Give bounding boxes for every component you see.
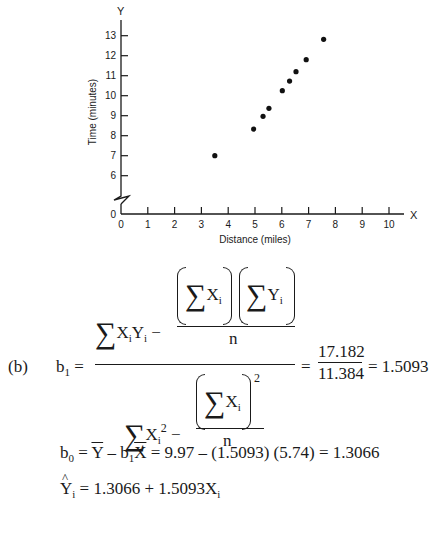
data-points <box>212 37 326 159</box>
y-tick-label: 11 <box>106 70 117 81</box>
y-tick-label: 12 <box>105 50 117 61</box>
y-tick-label: 13 <box>105 30 117 41</box>
x-axis-label: Distance (miles) <box>219 234 291 245</box>
x-tick-label: 10 <box>383 219 395 230</box>
b1-symbol: b <box>56 357 65 376</box>
x-tick-label: 2 <box>172 219 178 230</box>
x-tick-label: 1 <box>145 219 151 230</box>
result-value: = 1.5093 <box>368 358 429 375</box>
right-paren <box>242 374 251 430</box>
x-tick-label: 3 <box>199 219 205 230</box>
data-point <box>304 57 309 62</box>
b1-subscript: 1 <box>65 366 71 378</box>
data-point <box>293 69 298 74</box>
x-symbol: X <box>116 323 128 342</box>
equals-sign: = <box>78 443 88 462</box>
y-tick-label: 0 <box>110 209 116 220</box>
y-tick-label: 10 <box>105 90 117 101</box>
data-point <box>287 79 292 84</box>
x-tick-label: 7 <box>306 219 312 230</box>
superscript-2: 2 <box>161 421 167 435</box>
y-symbol: Y <box>267 285 279 304</box>
y-tick-label: 8 <box>110 130 116 141</box>
y-tick-label: 9 <box>110 110 116 121</box>
x-tick-label: 5 <box>252 219 258 230</box>
y-tick-label: 6 <box>110 170 116 181</box>
equals-sign: = <box>74 357 84 376</box>
data-point <box>321 37 326 42</box>
numerator-n: n <box>229 330 238 347</box>
x-tick-label: 0 <box>118 219 124 230</box>
y-axis-letter: Y <box>117 5 125 17</box>
y-axis-label: Time (minutes) <box>87 79 98 145</box>
right-paren <box>223 267 232 325</box>
part-label: (b) <box>8 358 28 375</box>
sub-i: i <box>219 294 222 306</box>
sub-i: i <box>217 488 220 500</box>
sub-i: i <box>238 401 241 413</box>
b0-subscript: 0 <box>69 452 75 464</box>
sum-y-term: ∑Yi <box>246 280 283 310</box>
x-axis-letter: X <box>410 209 418 221</box>
scatter-chart: 012345678910 0678910111213 X Y Distance … <box>0 0 446 250</box>
main-fraction-bar <box>95 364 295 365</box>
b1-symbol: b <box>120 443 129 462</box>
x-ticks: 012345678910 <box>118 207 395 230</box>
numerator-fraction-bar <box>177 326 295 327</box>
data-point <box>266 106 271 111</box>
y-hat: Y <box>60 480 72 497</box>
result-denominator: 11.384 <box>318 365 364 382</box>
equals-sign: = <box>368 357 378 376</box>
x-tick-label: 8 <box>333 219 339 230</box>
sigma-icon: ∑ <box>185 278 206 311</box>
x-tick-label: 6 <box>279 219 285 230</box>
b0-computation: = 9.97 – (1.5093) (5.74) = 1.3066 <box>151 443 380 462</box>
y-axis-break <box>114 192 129 204</box>
minus-sign: − <box>171 425 181 444</box>
b0-symbol: b <box>60 443 69 462</box>
sigma-icon: ∑ <box>246 278 267 311</box>
x-tick-label: 9 <box>359 219 365 230</box>
data-point <box>251 127 256 132</box>
minus-sign: – <box>107 443 116 462</box>
y-tick-label: 7 <box>110 150 116 161</box>
result-equals: = <box>301 358 311 375</box>
b0-equation: b0 = Y – b1X = 9.97 – (1.5093) (5.74) = … <box>60 444 379 464</box>
numerator-sum-xy: ∑XiYi − <box>95 318 161 348</box>
data-point <box>280 88 285 93</box>
right-paren <box>286 267 295 325</box>
sub-i: i <box>72 488 75 500</box>
data-point <box>260 114 265 119</box>
x-symbol: X <box>206 285 218 304</box>
result-fraction-bar <box>318 362 362 363</box>
sub-i: i <box>144 332 147 344</box>
y-ticks: 0678910111213 <box>105 30 128 220</box>
minus-sign: − <box>151 323 161 342</box>
x-symbol: X <box>145 425 157 444</box>
sum-x-term: ∑Xi <box>185 280 222 310</box>
sigma-icon: ∑ <box>204 385 225 418</box>
b1-lhs: b1 = <box>56 358 84 378</box>
y-symbol: Y <box>132 323 144 342</box>
regression-equation: Yi = 1.3066 + 1.5093Xi <box>60 480 220 500</box>
regression-rhs: = 1.3066 + 1.5093X <box>80 479 218 498</box>
x-tick-label: 4 <box>225 219 231 230</box>
denominator-fraction-bar <box>196 428 264 429</box>
data-point <box>212 153 217 158</box>
b1-result: 1.5093 <box>382 357 429 376</box>
x-symbol: X <box>225 392 237 411</box>
y-bar: Y <box>91 443 103 462</box>
x-bar: X <box>134 443 146 462</box>
sigma-icon: ∑ <box>95 316 116 349</box>
sum-x-term: ∑Xi <box>204 387 241 417</box>
result-numerator: 17.182 <box>318 343 365 360</box>
superscript-2: 2 <box>254 372 260 384</box>
sub-i: i <box>280 294 283 306</box>
